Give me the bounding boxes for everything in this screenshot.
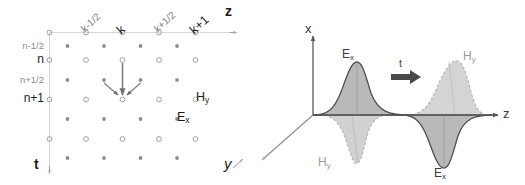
left-grid-canvas [0,0,525,185]
left-field-label-hy: Hy [196,91,209,105]
row-label-n-plus-1: n+1 [2,92,44,104]
pulse-1-label-hy-sub: y [327,161,331,170]
pulse-1-label-hy-main: H [318,155,327,169]
right-axis-label-x: x [305,22,312,35]
pulse-1-label-ex-main: E [342,47,350,61]
pulse-1-label-ex: Ex [342,48,354,62]
pulse-2-label-ex-main: E [434,166,442,180]
right-axis-label-z: z [503,107,510,120]
pulse-2-label-ex-sub: x [442,172,446,181]
update-stencil-arrows [104,63,141,95]
pulse-1-label-ex-sub: x [350,53,354,62]
pulse-2-label-hy-main: H [463,49,472,63]
left-field-label-ex: Ex [177,111,190,125]
pulse-2-label-ex: Ex [434,167,446,181]
pulse-2-label-hy-sub: y [472,55,476,64]
pulse-2-label-hy: Hy [463,50,476,64]
left-field-label-hy-main: H [196,90,205,104]
left-field-label-ex-sub: x [185,115,189,125]
left-axis-label-t: t [34,157,39,171]
time-arrow-label: t [399,58,402,69]
row-label-n-plus-half: n+1/2 [4,75,44,85]
pulse-1-label-hy: Hy [318,156,331,170]
left-axis-label-y: y [224,156,232,171]
row-label-n: n [4,53,44,65]
left-axis-label-z: z [225,4,232,18]
left-field-label-hy-sub: y [205,95,209,105]
row-label-n-minus-half: n-1/2 [4,41,44,51]
left-y-axis-arrow [233,159,243,168]
figure-root: n-1/2 n n+1/2 n+1 k-1/2 k k+1/2 k+1 z t … [0,0,525,185]
